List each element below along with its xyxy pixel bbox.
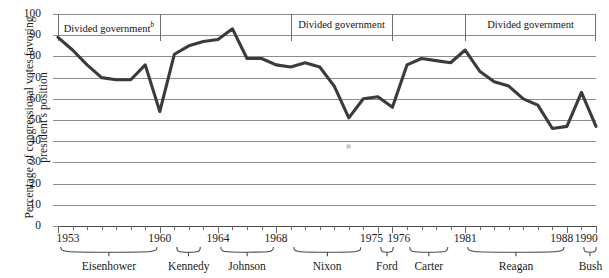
- chart-container: Percentage of congressional votes favori…: [0, 0, 609, 278]
- president-name-reagan: Reagan: [499, 260, 533, 272]
- plot-area: 0102030405060708090100 Divided governmen…: [58, 14, 596, 226]
- x-tick-1972: [334, 226, 335, 230]
- x-tick-1984: [509, 226, 510, 230]
- data-line-svg: [58, 14, 596, 226]
- president-name-ford: Ford: [376, 260, 398, 272]
- x-tick-1980: [451, 226, 452, 230]
- president-bracket-nixon: [293, 247, 362, 257]
- president-bracket-bush: [583, 247, 597, 257]
- y-tick-label-10: 10: [17, 199, 41, 211]
- x-tick-1982: [480, 226, 481, 230]
- y-tick-label-50: 50: [17, 114, 41, 126]
- president-bracket-reagan: [467, 247, 565, 257]
- x-year-label-1968: 1968: [265, 232, 288, 244]
- x-tick-1958: [131, 226, 132, 230]
- x-tick-1985: [523, 226, 524, 230]
- x-tick-1979: [436, 226, 437, 230]
- y-tick-label-40: 40: [17, 135, 41, 147]
- x-year-label-1981: 1981: [454, 232, 477, 244]
- x-tick-1983: [494, 226, 495, 230]
- x-year-label-1975: 1975: [360, 232, 383, 244]
- president-bracket-eisenhower: [60, 247, 158, 257]
- x-tick-1956: [102, 226, 103, 230]
- president-name-johnson: Johnson: [228, 260, 266, 272]
- x-tick-1957: [116, 226, 117, 230]
- x-tick-1973: [349, 226, 350, 230]
- y-tick-label-90: 90: [17, 29, 41, 41]
- y-tick-label-30: 30: [17, 156, 41, 168]
- y-tick-label-20: 20: [17, 178, 41, 190]
- x-axis-line: [58, 226, 596, 227]
- x-tick-1955: [87, 226, 88, 230]
- x-tick-1977: [407, 226, 408, 230]
- x-year-label-1964: 1964: [206, 232, 229, 244]
- x-tick-1963: [203, 226, 204, 230]
- x-year-label-1988: 1988: [550, 232, 573, 244]
- y-tick-label-70: 70: [17, 72, 41, 84]
- x-tick-1987: [552, 226, 553, 230]
- y-tick-label-0: 0: [17, 220, 41, 232]
- data-line-series: [58, 29, 596, 129]
- president-name-bush: Bush: [579, 260, 603, 272]
- print-speck: [346, 144, 351, 149]
- x-tick-1967: [262, 226, 263, 230]
- x-tick-1989: [581, 226, 582, 230]
- x-tick-1966: [247, 226, 248, 230]
- x-tick-1974: [363, 226, 364, 230]
- x-tick-1978: [422, 226, 423, 230]
- president-name-carter: Carter: [414, 260, 443, 272]
- x-tick-1962: [189, 226, 190, 230]
- x-tick-1965: [232, 226, 233, 230]
- x-tick-1961: [174, 226, 175, 230]
- x-year-label-1960: 1960: [148, 232, 171, 244]
- x-tick-1971: [320, 226, 321, 230]
- president-name-nixon: Nixon: [313, 260, 342, 272]
- x-year-label-1953: 1953: [57, 232, 80, 244]
- y-tick-label-60: 60: [17, 93, 41, 105]
- x-tick-1969: [291, 226, 292, 230]
- y-tick-label-80: 80: [17, 50, 41, 62]
- president-bracket-kennedy: [176, 247, 201, 257]
- x-tick-1986: [538, 226, 539, 230]
- president-bracket-ford: [380, 247, 394, 257]
- president-bracket-carter: [409, 247, 449, 257]
- x-tick-1959: [145, 226, 146, 230]
- president-name-kennedy: Kennedy: [168, 260, 210, 272]
- y-tick-label-100: 100: [17, 8, 41, 20]
- x-year-label-1990: 1990: [575, 232, 598, 244]
- x-tick-1954: [73, 226, 74, 230]
- president-name-eisenhower: Eisenhower: [82, 260, 136, 272]
- x-year-label-1976: 1976: [387, 232, 410, 244]
- x-tick-1970: [305, 226, 306, 230]
- president-bracket-johnson: [220, 247, 274, 257]
